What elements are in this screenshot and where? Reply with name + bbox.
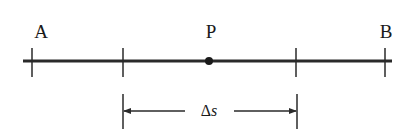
label-b: B <box>380 21 393 42</box>
interval-label-delta-s: Δs <box>201 102 218 119</box>
label-p: P <box>206 21 217 42</box>
variable-s: s <box>211 102 217 119</box>
diagram-canvas: A P B Δs <box>0 0 416 133</box>
label-a: A <box>34 21 48 42</box>
point-p-dot <box>205 57 213 65</box>
delta-symbol: Δ <box>201 102 211 119</box>
